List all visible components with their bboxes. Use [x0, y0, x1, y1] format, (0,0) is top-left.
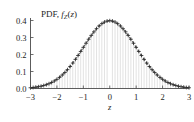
y-tick-label: 0.0 [16, 84, 27, 94]
title-paren-close: ) [74, 9, 77, 19]
y-tick-label: 0.3 [16, 33, 27, 43]
y-tick-label: 0.4 [16, 16, 27, 26]
pdf-chart-figure: 0.00.10.20.30.4 −3−2−10123 z PDF, fZ(z) [0, 0, 194, 122]
x-tick-label: −3 [26, 92, 35, 102]
plot-title: PDF, fZ(z) [41, 9, 77, 20]
chart-canvas: 0.00.10.20.30.4 −3−2−10123 z PDF, fZ(z) [0, 0, 194, 122]
x-axis-title: z [107, 102, 112, 112]
chart-background [0, 0, 194, 122]
x-tick-label: 1 [134, 92, 138, 102]
y-tick-label: 0.1 [16, 67, 27, 77]
x-tick-label: −1 [79, 92, 88, 102]
x-tick-label: 2 [160, 92, 164, 102]
y-tick-label: 0.2 [16, 50, 27, 60]
x-tick-label: 0 [108, 92, 112, 102]
x-tick-label: 3 [187, 92, 191, 102]
x-tick-label: −2 [52, 92, 61, 102]
title-prefix: PDF, [41, 9, 61, 19]
